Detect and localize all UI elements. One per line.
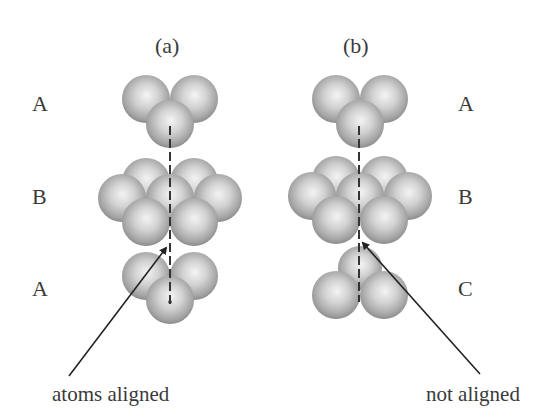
panel-a-caption: atoms aligned [52, 384, 169, 405]
panel-b-layer-label-3: C [458, 278, 473, 300]
panel-b-title: (b) [343, 35, 369, 57]
panel-b-layer-label-1: A [458, 93, 474, 115]
panel-a-layer-label-1: A [32, 93, 48, 115]
panel-b [288, 75, 480, 374]
panel-a-title: (a) [155, 35, 179, 57]
panel-b-layer-label-2: B [458, 186, 473, 208]
panel-a-layer-label-3: A [32, 278, 48, 300]
panel-a [69, 75, 242, 376]
stacking-diagram [0, 0, 556, 420]
panel-a-layer-label-2: B [32, 186, 47, 208]
panel-a-layer-A-top [122, 75, 218, 148]
panel-b-layer-A [312, 75, 408, 148]
panel-b-caption: not aligned [426, 384, 520, 405]
